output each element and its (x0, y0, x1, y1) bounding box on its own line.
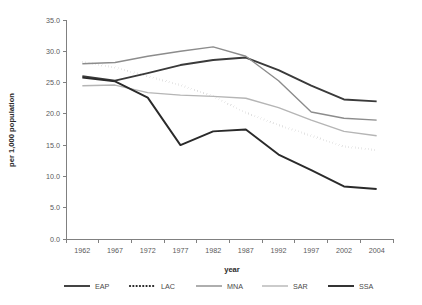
x-tick-label: 1977 (172, 246, 188, 255)
x-tick-label: 1967 (107, 246, 123, 255)
y-tick-label: 5.0 (50, 203, 60, 212)
series-line-eap (82, 58, 376, 102)
chart-legend: EAPLACMNASARSSA (64, 282, 374, 291)
x-tick-label: 1987 (238, 246, 254, 255)
x-tick-label: 1972 (140, 246, 156, 255)
y-axis: 0.05.010.015.020.025.030.035.0 (46, 16, 66, 244)
x-axis-title: year (224, 265, 240, 274)
x-tick-label: 1997 (303, 246, 319, 255)
legend-label-eap: EAP (95, 282, 110, 291)
y-tick-label: 35.0 (46, 16, 60, 25)
y-axis-title: per 1,000 population (7, 93, 16, 167)
y-tick-label: 25.0 (46, 78, 60, 87)
y-tick-label: 15.0 (46, 141, 60, 150)
legend-label-lac: LAC (161, 282, 175, 291)
y-tick-label: 10.0 (46, 172, 60, 181)
series-line-lac (82, 62, 376, 150)
x-tick-label: 2002 (336, 246, 352, 255)
legend-label-ssa: SSA (359, 282, 374, 291)
series-layer (82, 47, 376, 189)
legend-label-sar: SAR (293, 282, 308, 291)
x-tick-label: 1982 (205, 246, 221, 255)
chart-container: 0.05.010.015.020.025.030.035.0 196219671… (0, 0, 422, 305)
x-tick-label: 1962 (74, 246, 90, 255)
y-tick-label: 0.0 (50, 235, 60, 244)
series-line-sar (82, 85, 376, 136)
x-tick-label: 2004 (369, 246, 385, 255)
line-chart: 0.05.010.015.020.025.030.035.0 196219671… (0, 0, 422, 305)
x-tick-label: 1992 (271, 246, 287, 255)
x-axis: 1962196719721977198219871992199720022004 (66, 239, 393, 255)
legend-label-mna: MNA (227, 282, 243, 291)
y-tick-label: 20.0 (46, 109, 60, 118)
y-tick-label: 30.0 (46, 47, 60, 56)
